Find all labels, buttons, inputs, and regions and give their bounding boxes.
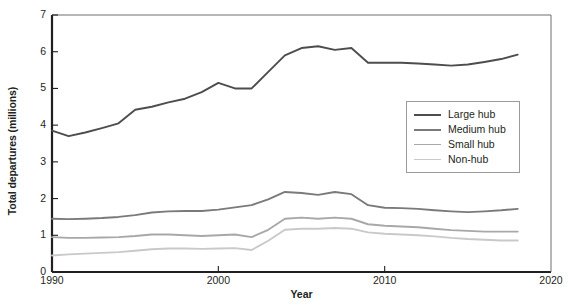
chart-legend: Large hubMedium hubSmall hubNon-hub xyxy=(406,101,520,173)
series-line-medium-hub xyxy=(52,192,518,219)
legend-swatch-line-icon xyxy=(414,129,441,131)
legend-label: Non-hub xyxy=(448,153,488,166)
legend-item-large-hub[interactable]: Large hub xyxy=(414,107,513,122)
tick-marks xyxy=(52,15,385,272)
legend-item-small-hub[interactable]: Small hub xyxy=(414,137,513,152)
legend-swatch-line-icon xyxy=(414,114,441,116)
chart-container: Total departures (millions) 01234567 199… xyxy=(0,0,571,308)
series-line-non-hub xyxy=(52,228,518,256)
series-line-small-hub xyxy=(52,218,518,238)
legend-label: Large hub xyxy=(448,108,495,121)
legend-swatch-line-icon xyxy=(414,144,441,145)
legend-item-medium-hub[interactable]: Medium hub xyxy=(414,122,513,137)
x-axis-title: Year xyxy=(52,288,551,300)
legend-item-non-hub[interactable]: Non-hub xyxy=(414,152,513,167)
legend-label: Medium hub xyxy=(448,123,506,136)
legend-label: Small hub xyxy=(448,138,495,151)
legend-swatch-line-icon xyxy=(414,159,441,160)
